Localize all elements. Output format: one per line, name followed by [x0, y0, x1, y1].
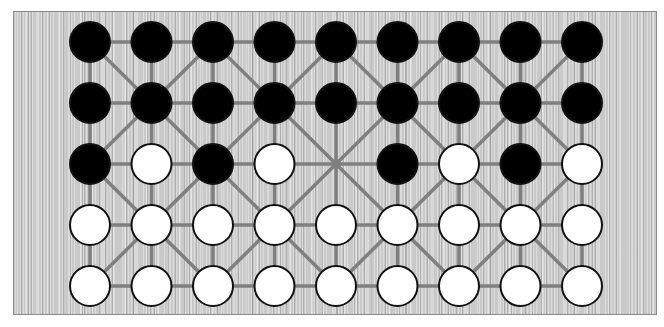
white-stone[interactable] [255, 266, 295, 306]
white-stone[interactable] [193, 205, 233, 245]
black-stone[interactable] [132, 22, 172, 62]
white-stone[interactable] [378, 205, 418, 245]
white-stone[interactable] [501, 205, 541, 245]
black-stone[interactable] [70, 144, 110, 184]
white-stone[interactable] [132, 205, 172, 245]
black-stone[interactable] [255, 22, 295, 62]
black-stone[interactable] [501, 83, 541, 123]
white-stone[interactable] [439, 205, 479, 245]
black-stone[interactable] [193, 22, 233, 62]
black-stone[interactable] [501, 144, 541, 184]
black-stone[interactable] [316, 83, 356, 123]
white-stone[interactable] [70, 205, 110, 245]
white-stone[interactable] [562, 266, 602, 306]
white-stone[interactable] [439, 266, 479, 306]
white-stone[interactable] [562, 205, 602, 245]
white-stone[interactable] [501, 266, 541, 306]
board-grid [0, 0, 664, 327]
white-stone[interactable] [255, 144, 295, 184]
white-stone[interactable] [255, 205, 295, 245]
black-stone[interactable] [378, 83, 418, 123]
black-stone[interactable] [562, 22, 602, 62]
black-stone[interactable] [70, 22, 110, 62]
black-stone[interactable] [378, 144, 418, 184]
black-stone[interactable] [439, 22, 479, 62]
black-stone[interactable] [378, 22, 418, 62]
white-stone[interactable] [316, 266, 356, 306]
white-stone[interactable] [439, 144, 479, 184]
black-stone[interactable] [255, 83, 295, 123]
black-stone[interactable] [193, 144, 233, 184]
white-stone[interactable] [132, 144, 172, 184]
black-stone[interactable] [316, 22, 356, 62]
white-stone[interactable] [132, 266, 172, 306]
black-stone[interactable] [439, 83, 479, 123]
white-stone[interactable] [562, 144, 602, 184]
black-stone[interactable] [70, 83, 110, 123]
white-stone[interactable] [193, 266, 233, 306]
white-stone[interactable] [70, 266, 110, 306]
black-stone[interactable] [562, 83, 602, 123]
black-stone[interactable] [193, 83, 233, 123]
white-stone[interactable] [316, 205, 356, 245]
black-stone[interactable] [132, 83, 172, 123]
black-stone[interactable] [501, 22, 541, 62]
white-stone[interactable] [378, 266, 418, 306]
